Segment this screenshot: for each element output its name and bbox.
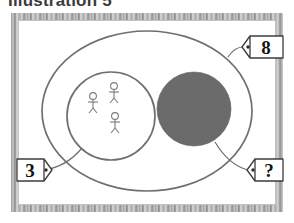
label-tag-inner[interactable]: 3: [17, 159, 52, 181]
label-tag-shaded-text: ?: [264, 160, 274, 181]
label-tag-shaded[interactable]: ?: [247, 159, 283, 181]
leader-line-outer: [228, 47, 243, 57]
label-tag-outer[interactable]: 8: [242, 36, 283, 58]
shaded-disc: [157, 72, 231, 146]
illustration-page: Illustration 5: [0, 0, 294, 223]
label-tag-inner-text: 3: [25, 160, 35, 181]
label-tag-outer-text: 8: [261, 37, 271, 58]
stick-figure-icon: [109, 83, 119, 103]
stick-figure-icon: [110, 113, 120, 133]
leader-line-shaded: [215, 142, 248, 170]
set-diagram: 8 3 ?: [0, 0, 294, 223]
stick-figure-icon: [88, 93, 98, 113]
